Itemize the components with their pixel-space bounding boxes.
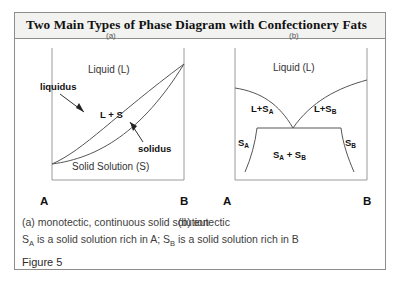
phase-diagram-a: Liquid (L) L + S Solid Solution (S) liqu… <box>38 46 188 192</box>
liquidus-arrowhead <box>76 103 84 112</box>
region-label-sa-plus-sb: SA + SB <box>273 149 306 161</box>
axis-label-b-right: B <box>363 195 371 207</box>
axis-label-a-left: A <box>40 195 48 207</box>
caption-solid-solution-note: SA is a solid solution rich in A; SB is … <box>22 233 299 248</box>
region-label-liquid-a: Liquid (L) <box>88 64 130 75</box>
caption-note-tail: is a solid solution rich in B <box>178 233 299 245</box>
region-label-l-plus-s: L + S <box>100 109 123 120</box>
annotation-label-liquidus: liquidus <box>40 81 76 92</box>
region-label-l-plus-sb: L+SB <box>314 103 337 115</box>
panel-label-b: (b) <box>289 31 299 40</box>
solvus-left-curve <box>245 128 257 172</box>
region-label-solid-solution: Solid Solution (S) <box>72 161 149 172</box>
figure-title: Two Main Types of Phase Diagram with Con… <box>26 17 367 33</box>
axis-label-a-right: B <box>180 195 188 207</box>
region-label-l-plus-sa: L+SA <box>251 103 274 115</box>
caption-eutectic: (b) eutectic <box>178 216 230 228</box>
solvus-right-curve <box>341 128 354 172</box>
region-label-sa: SA <box>238 137 249 149</box>
axis-label-b-left: A <box>223 195 231 207</box>
panel-label-a: (a) <box>106 31 116 40</box>
phase-diagram-b: Liquid (L) L+SA L+SB SA SB SA + SB <box>221 46 371 192</box>
figure-number-label: Figure 5 <box>22 256 62 268</box>
region-label-liquid-b: Liquid (L) <box>273 62 315 73</box>
region-label-sb: SB <box>345 137 356 149</box>
caption-note-s1: S <box>22 233 29 245</box>
caption-note-body: is a solid solution rich in A; S <box>37 233 170 245</box>
annotation-label-solidus: solidus <box>138 143 171 154</box>
